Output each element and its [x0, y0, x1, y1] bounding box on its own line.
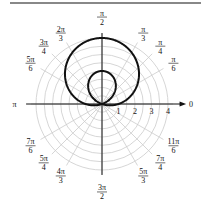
angle-label-denominator: 3 [59, 34, 63, 43]
angle-label-denominator: 2 [100, 18, 104, 27]
radial-tick-label: 1 [117, 107, 121, 116]
angle-label-denominator: 3 [141, 176, 145, 185]
angle-label-numerator: 11π [168, 137, 180, 146]
angle-label-numerator: 5π [27, 55, 35, 64]
arrow-icon [180, 102, 187, 107]
angle-label-denominator: 3 [59, 176, 63, 185]
grid-spoke [67, 104, 102, 165]
angle-label-denominator: 2 [100, 192, 104, 201]
radial-tick-label: 2 [133, 107, 137, 116]
angle-label-denominator: 3 [141, 34, 145, 43]
angle-label-numerator: π [171, 55, 175, 64]
angle-label-numerator: 3π [98, 183, 106, 192]
polar-plot: 0π6π4π3π22π33π45π6π7π65π44π33π25π37π411π… [0, 0, 201, 222]
angle-label-numerator: π [100, 9, 104, 18]
angle-label-denominator: 6 [171, 146, 175, 155]
angle-label-denominator: 4 [158, 47, 162, 56]
angle-label: π [13, 100, 17, 109]
radial-tick-label: 4 [166, 107, 170, 116]
radial-tick-label: 3 [150, 107, 154, 116]
angle-label: 0 [189, 100, 193, 109]
angle-label-numerator: 4π [57, 167, 65, 176]
angle-label-numerator: 5π [139, 167, 147, 176]
angle-label-numerator: 3π [40, 38, 48, 47]
grid-spoke [41, 104, 102, 139]
angle-label-denominator: 6 [29, 146, 33, 155]
angle-label-denominator: 6 [171, 64, 175, 73]
angle-label-numerator: 5π [40, 154, 48, 163]
angle-label-denominator: 4 [42, 163, 46, 172]
angle-label-numerator: π [158, 38, 162, 47]
angle-label-numerator: π [141, 25, 145, 34]
angle-label-numerator: 2π [57, 25, 65, 34]
angle-label-numerator: 7π [156, 154, 164, 163]
angle-label-numerator: 7π [27, 137, 35, 146]
angle-label-denominator: 6 [29, 64, 33, 73]
angle-label-denominator: 4 [42, 47, 46, 56]
angle-label-denominator: 4 [158, 163, 162, 172]
